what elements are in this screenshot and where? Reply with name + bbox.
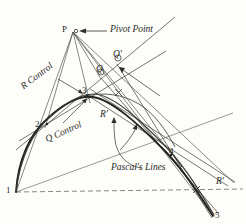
point-3-marker (86, 95, 89, 98)
point-2-marker (46, 123, 48, 125)
pascal-line-a (84, 93, 228, 186)
pascals-lines-leader-arrowhead (111, 117, 116, 123)
point-p-marker (74, 29, 77, 32)
pascal-line-d (117, 64, 212, 218)
baseline-dashed (16, 189, 243, 192)
x-mark-upper (115, 89, 122, 96)
r-control-leader-arrowhead (78, 89, 83, 94)
q-control-leader-arrowhead (82, 98, 87, 104)
point-q-prime-marker (115, 55, 121, 61)
r-control-leader-line (58, 79, 80, 92)
r-control-line (16, 17, 175, 150)
point-4-marker (170, 154, 172, 156)
diagram-canvas: P Pivot Point R Control Q Control Pascal… (0, 0, 246, 224)
pivot-ray-to-1 (16, 32, 73, 192)
pivot-ray-through-q (73, 32, 101, 79)
pascal-line-b (90, 89, 235, 182)
line-1-to-r-prime (16, 113, 233, 192)
pascals-lines-leader-curve-2 (120, 128, 136, 150)
conic-curve-secondary (16, 94, 214, 215)
pivot-ray-to-r-prime (73, 32, 234, 183)
construction-drawing (0, 0, 246, 224)
pascal-direction-arrowhead (119, 67, 125, 73)
pivot-leader-arrowhead (79, 28, 86, 33)
